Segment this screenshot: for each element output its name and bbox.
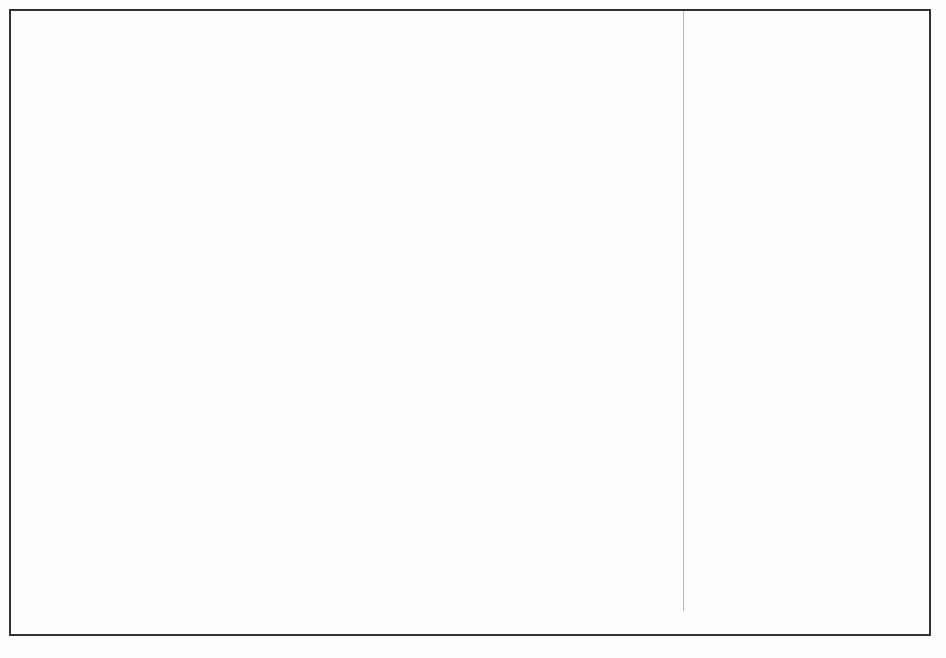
stacked-area-plot — [11, 11, 683, 611]
figure-page — [0, 0, 946, 658]
chart-region — [11, 11, 929, 634]
plot-area-wrapper — [11, 11, 683, 611]
legend-panel — [683, 11, 929, 611]
